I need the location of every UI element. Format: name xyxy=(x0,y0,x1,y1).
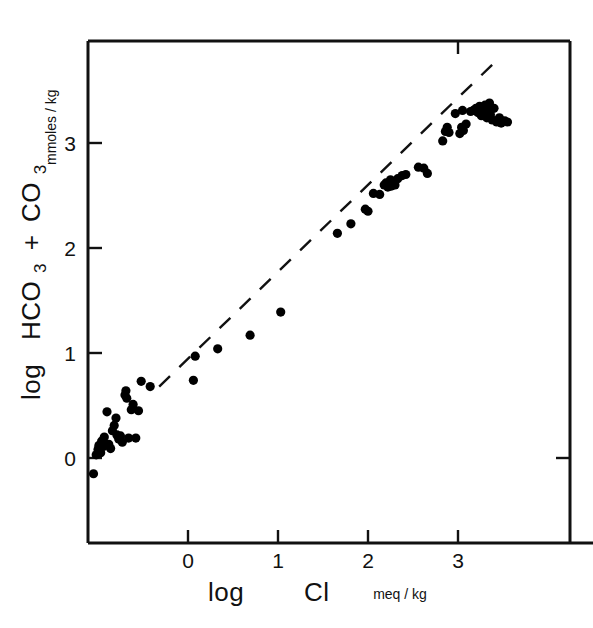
data-point xyxy=(106,444,115,453)
data-point xyxy=(134,406,143,415)
y-axis-units-text: mmoles / kg xyxy=(43,90,59,165)
y-axis-title-text: log HCO 3 + CO 3 xyxy=(16,164,52,400)
data-point xyxy=(213,344,222,353)
data-point xyxy=(276,307,285,316)
data-point xyxy=(131,433,140,442)
x-axis-title-text: log Cl xyxy=(208,577,330,607)
tick-label-group: 01230123 xyxy=(64,132,464,572)
x-tick-label: 3 xyxy=(452,549,464,572)
data-point xyxy=(111,414,120,423)
y-tick-label: 2 xyxy=(64,237,76,260)
data-point xyxy=(462,120,471,129)
y-title-hco3-sub: 3 xyxy=(31,263,50,273)
y-tick-label: 3 xyxy=(64,132,76,155)
y-tick-label: 1 xyxy=(64,342,76,365)
y-tick-label: 0 xyxy=(64,447,76,470)
data-point xyxy=(363,207,372,216)
data-point xyxy=(438,136,447,145)
data-point xyxy=(89,469,98,478)
x-tick-label: 1 xyxy=(272,549,284,572)
data-point xyxy=(375,190,384,199)
y-axis-units: mmoles / kg xyxy=(43,90,59,165)
figure-container: 01230123 log HCO 3 + CO 3 mmoles / kg lo… xyxy=(0,0,593,628)
y-title-hco3: HCO xyxy=(16,281,46,340)
data-point xyxy=(346,219,355,228)
axis-frame xyxy=(88,41,593,543)
x-title-log: log xyxy=(208,577,244,607)
y-title-log: log xyxy=(16,364,46,400)
y-title-co3: CO xyxy=(16,182,46,222)
x-title-cl: Cl xyxy=(304,577,330,607)
y-axis-title: log HCO 3 + CO 3 xyxy=(16,164,52,400)
data-point xyxy=(146,382,155,391)
data-point xyxy=(458,106,467,115)
data-point xyxy=(444,128,453,137)
data-point xyxy=(423,169,432,178)
y-title-plus: + xyxy=(16,235,46,251)
data-point xyxy=(489,104,498,113)
data-point xyxy=(191,352,200,361)
data-point-group xyxy=(89,99,512,479)
data-point xyxy=(401,170,410,179)
data-point xyxy=(503,117,512,126)
scatter-plot: 01230123 log HCO 3 + CO 3 mmoles / kg lo… xyxy=(0,0,593,628)
data-point xyxy=(333,229,342,238)
x-axis-units-text: meq / kg xyxy=(373,586,427,602)
data-point xyxy=(102,407,111,416)
data-point xyxy=(137,377,146,386)
x-tick-label: 2 xyxy=(362,549,374,572)
reference-line-dashed xyxy=(159,62,495,386)
data-point xyxy=(246,331,255,340)
x-tick-label: 0 xyxy=(182,549,194,572)
data-point xyxy=(189,376,198,385)
